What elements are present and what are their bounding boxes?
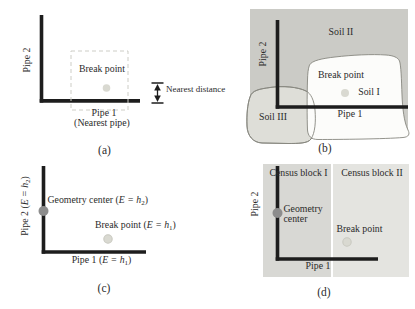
- pipe-1-label-c: Pipe 1 (E = h1): [72, 255, 132, 266]
- nearest-distance-label: Nearest distance: [166, 84, 225, 94]
- panel-c-shapes: [39, 166, 147, 254]
- caption-a: (a): [98, 143, 111, 156]
- pipe-2-label-c-text: Pipe 2 (: [19, 205, 30, 235]
- geometry-center-dot-d: [273, 208, 283, 218]
- nearest-pipe-sublabel-a: (Nearest pipe): [74, 117, 130, 128]
- figure-canvas: Pipe 2 Break point Pipe 1 (Nearest pipe)…: [0, 0, 415, 309]
- pipe-2-label-a: Pipe 2: [22, 48, 33, 73]
- pipe-2-label-c-sub: 2: [24, 179, 32, 183]
- geometry-center-label-c: Geometry center (E = h2): [48, 194, 148, 205]
- geometry-center-label-d: Geometry center: [284, 204, 323, 226]
- pipe-2-label-c: Pipe 2 (E = h2): [20, 176, 31, 236]
- break-point-label-c-math: E = h: [147, 219, 169, 230]
- soil-1-label: Soil I: [358, 87, 380, 98]
- geometry-center-label-c-math: E = h: [119, 193, 141, 204]
- break-point-dot-c: [104, 235, 112, 243]
- break-point-dot-b: [341, 89, 349, 97]
- soil-3-label: Soil III: [259, 111, 287, 122]
- geometry-center-label-c-close: ): [145, 193, 148, 204]
- geometry-center-label-c-text: Geometry center (: [48, 193, 119, 204]
- pipe-1-label-c-math: E = h: [102, 254, 124, 265]
- nearest-distance-arrow-icon: [152, 83, 164, 103]
- census-block-1-label: Census block I: [269, 168, 327, 179]
- break-point-label-c-text: Break point (: [95, 219, 147, 230]
- figure-shapes: [0, 0, 415, 309]
- pipe-1-label-c-text: Pipe 1 (: [72, 254, 102, 265]
- break-point-label-c: Break point (E = h1): [95, 220, 176, 231]
- break-point-dot-d: [343, 238, 351, 246]
- break-point-label-b: Break point: [318, 69, 364, 80]
- census-block-2-label: Census block II: [341, 168, 403, 179]
- caption-d: (d): [317, 286, 330, 299]
- break-point-label-d: Break point: [337, 224, 383, 235]
- geometry-center-dot-c: [39, 206, 49, 216]
- break-point-dot-a: [103, 84, 111, 92]
- pipe-1-label-b: Pipe 1: [338, 109, 363, 120]
- soil-2-label: Soil II: [329, 27, 354, 38]
- break-point-label-a: Break point: [79, 64, 125, 75]
- pipe-1-label-d: Pipe 1: [306, 261, 331, 272]
- pipe-2-label-c-math: E = h: [19, 183, 30, 205]
- pipe-2-label-c-close: ): [19, 176, 30, 179]
- pipe-1-label-c-close: ): [128, 254, 131, 265]
- pipe-2-label-d: Pipe 2: [250, 191, 261, 216]
- caption-b: (b): [318, 141, 331, 154]
- caption-c: (c): [98, 282, 111, 295]
- break-point-label-c-close: ): [173, 219, 176, 230]
- geometry-center-label-d-line2: center: [284, 215, 323, 226]
- pipe-2-label-b: Pipe 2: [258, 42, 269, 67]
